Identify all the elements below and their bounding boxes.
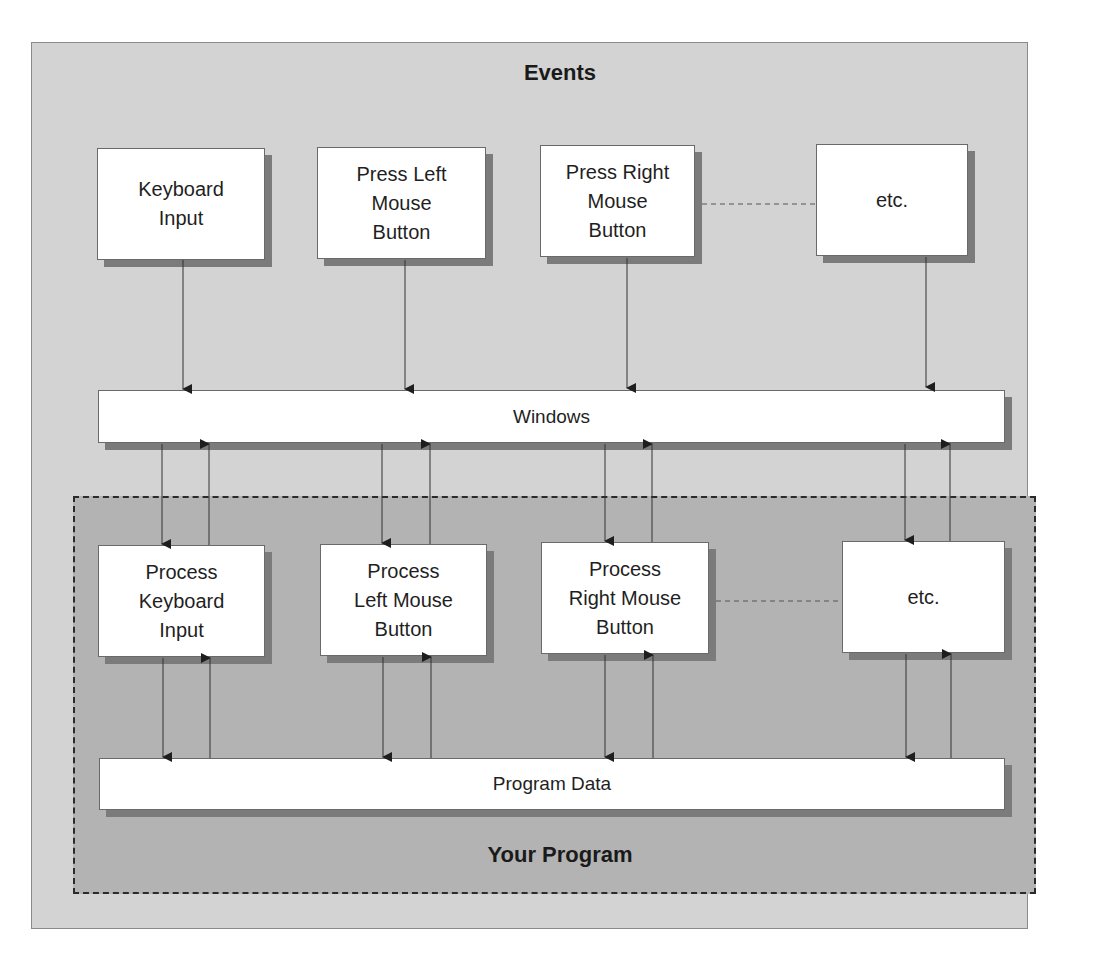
clipped-body-text xyxy=(92,953,1052,965)
event-flow-diagram: Events Keyboard Input Press Left Mouse B… xyxy=(0,0,1108,965)
event-box-press-right-mouse-button: Press Right Mouse Button xyxy=(540,145,695,257)
handler-box-process-right-mouse-button: Process Right Mouse Button xyxy=(541,542,709,654)
handler-box-etc: etc. xyxy=(842,541,1005,653)
handler-box-process-keyboard-input: Process Keyboard Input xyxy=(98,545,265,657)
windows-bar: Windows xyxy=(98,390,1005,443)
event-box-press-left-mouse-button: Press Left Mouse Button xyxy=(317,147,486,259)
event-box-etc: etc. xyxy=(816,144,968,256)
event-box-keyboard-input: Keyboard Input xyxy=(97,148,265,260)
your-program-title: Your Program xyxy=(430,842,690,868)
handler-box-process-left-mouse-button: Process Left Mouse Button xyxy=(320,544,487,656)
events-title: Events xyxy=(460,60,660,86)
program-data-bar: Program Data xyxy=(99,758,1005,810)
